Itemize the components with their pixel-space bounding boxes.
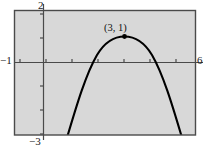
x-axis-left-label: −1 [0,55,12,66]
vertex-point-label: (3, 1) [104,23,127,34]
vertex-point-marker [122,34,127,39]
plot-area [0,0,204,153]
figure-container: 2 −3 −1 6 (3, 1) [0,0,204,153]
x-axis-right-label: 6 [197,55,203,66]
y-axis-bottom-label: −3 [29,136,41,147]
y-axis-top-label: 2 [38,0,44,11]
